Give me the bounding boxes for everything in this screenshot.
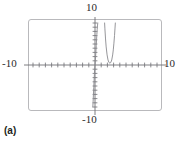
x-max-label: 10: [164, 58, 175, 69]
curve-branch-right: [105, 23, 116, 63]
y-min-label: -10: [82, 114, 97, 125]
y-max-label: 10: [86, 2, 97, 13]
figure-caption: (a): [4, 126, 16, 136]
x-min-label: -10: [2, 58, 17, 69]
plot-canvas: [28, 19, 162, 111]
graph-figure: 10 -10 -10 10 (a): [0, 0, 179, 147]
